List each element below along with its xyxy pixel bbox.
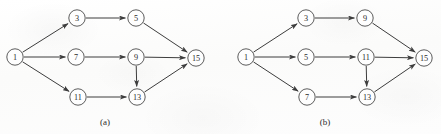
graph-edge-9-to-15 [372,23,415,52]
node-label: 11 [74,93,82,102]
graph-node-3[interactable]: 3 [69,10,85,26]
node-label: 13 [133,93,141,102]
graph-node-9[interactable]: 9 [357,10,373,26]
node-label: 5 [134,14,138,23]
node-label: 5 [304,53,308,62]
graph-node-3[interactable]: 3 [298,10,314,26]
graph-edge-13-to-15 [145,64,188,92]
graph-node-15[interactable]: 15 [188,50,204,66]
graph-edge-9-to-15 [145,57,185,58]
graph-node-15[interactable]: 15 [416,50,432,66]
graph-node-11[interactable]: 11 [70,89,86,105]
panel-caption-panel-a: (a) [100,117,110,127]
graph-node-11[interactable]: 11 [358,49,374,65]
graph-node-9[interactable]: 9 [128,49,144,65]
graph-node-5[interactable]: 5 [128,10,144,26]
graph-node-13[interactable]: 13 [359,89,375,105]
node-label: 15 [192,54,200,63]
graph-node-1[interactable]: 1 [7,49,23,65]
figure-root: 1357911131513951171315 (a)(b) [0,0,441,134]
graph-node-1[interactable]: 1 [238,49,254,65]
graph-edge-1-to-3 [23,24,68,53]
node-label: 9 [363,14,367,23]
graph-node-5[interactable]: 5 [298,49,314,65]
node-label: 1 [13,53,17,62]
node-label: 7 [74,53,78,62]
graph-node-7[interactable]: 7 [299,89,315,105]
node-label: 15 [420,54,428,63]
node-label: 3 [75,14,79,23]
captions-layer: (a)(b) [100,117,330,127]
graph-node-7[interactable]: 7 [68,49,84,65]
graph-edge-5-to-15 [143,23,187,52]
graph-edge-1-to-7 [254,62,299,91]
graph-edge-9-to-13 [136,66,137,86]
graph-edge-13-to-15 [374,64,415,92]
graph-node-13[interactable]: 13 [129,89,145,105]
node-label: 7 [305,93,309,102]
directed-graph-figure: 1357911131513951171315 (a)(b) [0,0,441,134]
graph-edge-11-to-13 [366,66,367,86]
node-label: 13 [363,93,371,102]
nodes-layer: 1357911131513951171315 [7,10,432,105]
graph-edge-1-to-11 [23,62,69,92]
graph-edge-1-to-3 [254,24,298,52]
node-label: 9 [134,53,138,62]
node-label: 11 [362,53,370,62]
panel-caption-panel-b: (b) [320,117,331,127]
node-label: 1 [244,53,248,62]
node-label: 3 [304,14,308,23]
graph-edge-11-to-15 [375,57,413,58]
